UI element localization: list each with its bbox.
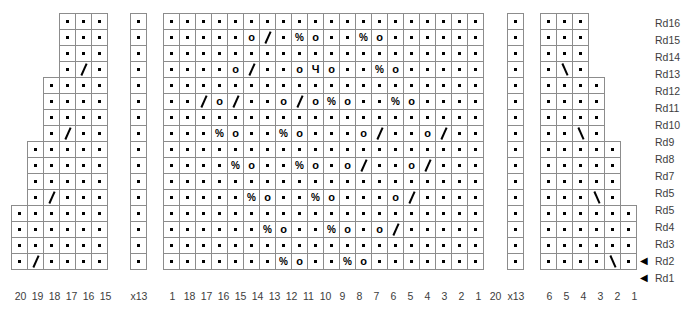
cell-knit bbox=[355, 205, 372, 222]
chart-row bbox=[12, 94, 108, 110]
cell-knit bbox=[291, 237, 308, 254]
column-label: 15 bbox=[232, 290, 249, 302]
left-arrow-icon: ◀ bbox=[640, 256, 652, 266]
cell-knit bbox=[451, 45, 468, 62]
chart-row bbox=[541, 238, 637, 254]
cell-knit bbox=[211, 77, 228, 94]
cell-knit bbox=[355, 77, 372, 94]
cell-knit bbox=[540, 189, 557, 206]
cell-knit bbox=[588, 77, 605, 94]
cell-knit bbox=[355, 221, 372, 238]
cell-knit bbox=[275, 189, 292, 206]
cell-yarnover: o bbox=[371, 29, 388, 46]
column-label: 6 bbox=[385, 290, 402, 302]
cell-yarnover: o bbox=[419, 125, 436, 142]
cell-knit bbox=[211, 109, 228, 126]
cell-knit bbox=[540, 45, 557, 62]
cell-ssk bbox=[572, 125, 589, 142]
cell-knit bbox=[179, 157, 196, 174]
chart-row bbox=[541, 14, 637, 30]
cell-knit bbox=[371, 45, 388, 62]
cell-knit bbox=[243, 173, 260, 190]
cell-knit bbox=[59, 13, 76, 30]
cell-k2tog bbox=[355, 157, 372, 174]
cell-knit bbox=[435, 221, 452, 238]
cell-knit bbox=[75, 141, 92, 158]
cell-knit bbox=[211, 29, 228, 46]
cell-knit bbox=[291, 13, 308, 30]
chart-row bbox=[164, 14, 484, 30]
cell-empty bbox=[620, 173, 637, 190]
chart-row bbox=[541, 126, 637, 142]
cell-knit bbox=[403, 45, 420, 62]
cell-knit bbox=[588, 173, 605, 190]
round-label: ◀Rd9 bbox=[640, 133, 680, 150]
cell-knit bbox=[275, 109, 292, 126]
round-label-text: Rd10 bbox=[655, 119, 680, 131]
cell-empty bbox=[11, 77, 28, 94]
cell-knit bbox=[323, 29, 340, 46]
cell-yarnover: o bbox=[227, 125, 244, 142]
chart-row bbox=[131, 142, 147, 158]
cell-knit bbox=[75, 77, 92, 94]
cell-knit bbox=[243, 221, 260, 238]
cell-knit bbox=[507, 221, 524, 238]
cell-knit bbox=[195, 29, 212, 46]
cell-knit bbox=[323, 125, 340, 142]
center-chart-column-labels: 118171615141312111098765432120 bbox=[164, 290, 504, 302]
cell-knit bbox=[130, 253, 147, 270]
cell-knit bbox=[419, 109, 436, 126]
cell-knit bbox=[435, 173, 452, 190]
cell-knit bbox=[59, 189, 76, 206]
column-label: 5 bbox=[402, 290, 419, 302]
chart-row bbox=[12, 126, 108, 142]
cell-knit bbox=[163, 93, 180, 110]
cell-knit bbox=[540, 125, 557, 142]
round-label: ◀Rd16 bbox=[640, 14, 680, 31]
cell-knit bbox=[91, 125, 108, 142]
column-label: 5 bbox=[558, 290, 575, 302]
cell-knit bbox=[371, 205, 388, 222]
cell-empty bbox=[11, 157, 28, 174]
column-label: 1 bbox=[164, 290, 181, 302]
chart-row: ooo%o%o bbox=[164, 94, 484, 110]
cell-knit bbox=[43, 109, 60, 126]
cell-empty bbox=[43, 61, 60, 78]
cell-knit bbox=[540, 253, 557, 270]
cell-knit bbox=[59, 77, 76, 94]
cell-double-decrease: % bbox=[387, 93, 404, 110]
chart-row bbox=[12, 190, 108, 206]
cell-empty bbox=[620, 13, 637, 30]
cell-empty bbox=[11, 109, 28, 126]
cell-empty bbox=[604, 29, 621, 46]
cell-yarnover: o bbox=[227, 61, 244, 78]
cell-yarnover: o bbox=[339, 221, 356, 238]
cell-knit bbox=[227, 221, 244, 238]
cell-knit bbox=[259, 45, 276, 62]
cell-knit bbox=[75, 237, 92, 254]
cell-knit bbox=[291, 221, 308, 238]
cell-knit bbox=[291, 189, 308, 206]
column-label: 11 bbox=[300, 290, 317, 302]
cell-knit bbox=[43, 141, 60, 158]
chart-row bbox=[541, 62, 637, 78]
cell-knit bbox=[355, 13, 372, 30]
cell-yarnover: o bbox=[355, 125, 372, 142]
cell-knit bbox=[307, 77, 324, 94]
cell-knit bbox=[435, 29, 452, 46]
cell-knit bbox=[179, 237, 196, 254]
chart-row bbox=[131, 190, 147, 206]
cell-knit bbox=[556, 221, 573, 238]
cell-knit bbox=[451, 141, 468, 158]
cell-knit bbox=[243, 253, 260, 270]
cell-knit bbox=[91, 61, 108, 78]
cell-double-decrease: % bbox=[307, 189, 324, 206]
cell-knit bbox=[556, 253, 573, 270]
cell-knit bbox=[403, 61, 420, 78]
cell-knit bbox=[620, 253, 637, 270]
chart-row bbox=[541, 222, 637, 238]
cell-knit bbox=[59, 109, 76, 126]
cell-knit bbox=[211, 221, 228, 238]
chart-row: ooЧo%o bbox=[164, 62, 484, 78]
cell-knit bbox=[59, 157, 76, 174]
